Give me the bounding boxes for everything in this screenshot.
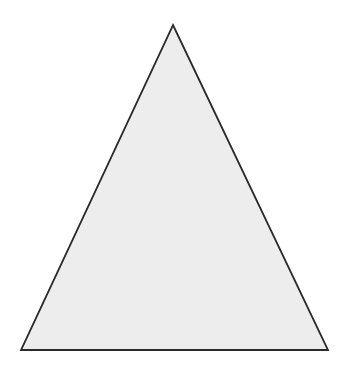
shape-svg <box>0 0 348 366</box>
figure-canvas <box>0 0 348 366</box>
